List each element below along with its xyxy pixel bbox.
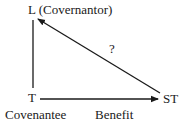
edge-t-to-st-label: Benefit: [95, 108, 133, 121]
node-l-label: L (Covernantor): [28, 3, 112, 16]
edge-st-to-l-arrow: [38, 19, 160, 93]
edge-st-to-l-label: ?: [109, 42, 115, 55]
node-st-label: ST: [163, 92, 178, 105]
node-t-label: T: [28, 91, 36, 104]
node-t-sublabel: Covenantee: [5, 108, 66, 121]
